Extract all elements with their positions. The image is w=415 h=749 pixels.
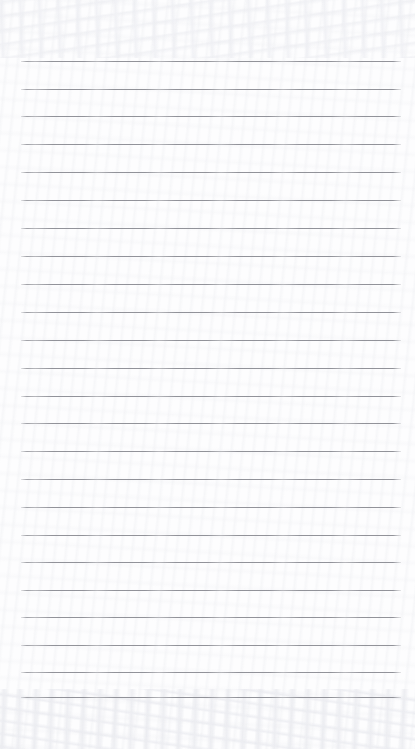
ruled-line: [21, 507, 401, 508]
ruled-line: [21, 172, 401, 173]
ruled-line: [21, 479, 401, 480]
ruled-line: [21, 340, 401, 341]
ruled-line: [21, 451, 401, 452]
ruled-line: [21, 396, 401, 397]
ruled-line: [21, 116, 401, 117]
ruled-line: [21, 535, 401, 536]
scanned-page: [0, 0, 415, 749]
ruled-line: [21, 617, 401, 618]
ruled-line-group: [0, 0, 415, 749]
ruled-line: [21, 200, 401, 201]
ruled-line: [21, 144, 401, 145]
ruled-line: [21, 256, 401, 257]
ruled-line: [21, 89, 401, 90]
ruled-line: [21, 672, 401, 673]
ruled-line: [21, 228, 401, 229]
ruled-line: [21, 284, 401, 285]
ruled-line: [21, 590, 401, 591]
ruled-line: [21, 368, 401, 369]
ruled-line: [21, 61, 401, 62]
ruled-line: [21, 697, 401, 698]
ruled-line: [21, 645, 401, 646]
ruled-line: [21, 423, 401, 424]
ruled-line: [21, 312, 401, 313]
ruled-line: [21, 562, 401, 563]
